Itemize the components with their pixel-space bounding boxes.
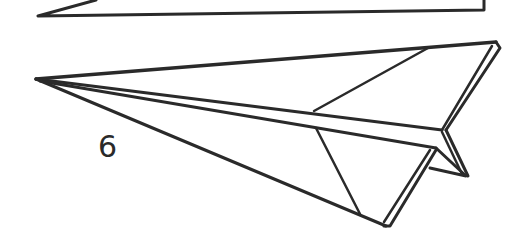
paper-airplane-drawing (0, 0, 516, 249)
keel-rear-inner (384, 150, 430, 222)
keel-fold-line (316, 128, 360, 214)
rear-wing-edge-inner (442, 46, 492, 130)
step-number-label: 6 (98, 132, 117, 162)
wing-fold-line (314, 48, 428, 111)
rear-wing-edge-outer (446, 42, 500, 130)
keel-rear-outer (384, 150, 436, 226)
previous-step-fragment (38, 0, 484, 16)
